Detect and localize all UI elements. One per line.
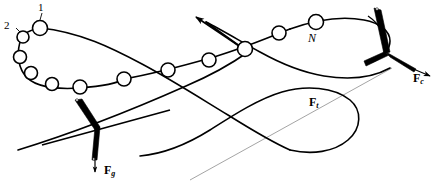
tension-force-subscript: t (316, 101, 318, 110)
normal-force-label: N (308, 32, 316, 44)
bead-marker-chain (14, 15, 324, 95)
bead-marker (202, 53, 216, 67)
bead-marker (309, 15, 324, 30)
centripetal-force-subscript: c (420, 77, 424, 86)
left-support-pole (42, 99, 170, 161)
point-label-2: 2 (4, 20, 10, 31)
gravity-force-subscript: g (111, 169, 115, 178)
point-label-1: 1 (38, 2, 44, 13)
bead-marker (117, 72, 131, 86)
bead-marker (238, 42, 253, 57)
bead-marker (14, 51, 27, 64)
bead-marker (33, 21, 48, 36)
physics-force-diagram: 1 2 N Ft Fg Fc (0, 0, 447, 190)
bead-marker (73, 80, 87, 94)
bead-marker (46, 78, 59, 91)
bead-marker (272, 26, 286, 40)
gravity-force-label: Fg (104, 164, 115, 176)
tension-force-label: Ft (309, 96, 319, 108)
centripetal-force-label: Fc (413, 72, 424, 84)
bead-marker (25, 67, 38, 80)
diagram-canvas (0, 0, 447, 190)
bead-marker (161, 63, 175, 77)
bead-marker (17, 31, 29, 43)
